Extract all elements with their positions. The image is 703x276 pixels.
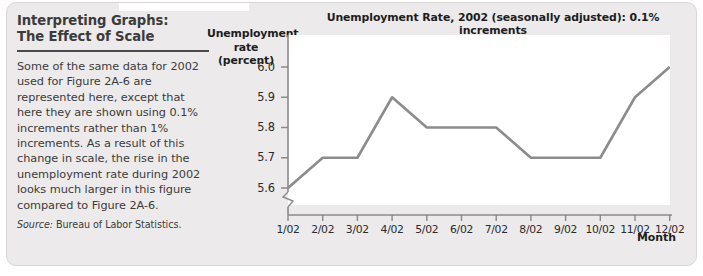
chart-block: Unemployment Rate, 2002 (seasonally adju… <box>207 3 697 266</box>
x-axis-title: Month <box>637 231 676 244</box>
figure-panel: Interpreting Graphs: The Effect of Scale… <box>6 2 697 266</box>
data-line <box>288 67 670 188</box>
caption-divider <box>17 50 209 52</box>
plot-svg <box>288 35 670 205</box>
caption-column: Interpreting Graphs: The Effect of Scale… <box>17 13 213 230</box>
y-tick-label: 5.8 <box>241 120 275 134</box>
chart-title: Unemployment Rate, 2002 (seasonally adju… <box>293 11 693 37</box>
caption-source: Source: Bureau of Labor Statistics. <box>17 219 213 230</box>
y-tick-label: 5.7 <box>241 150 275 164</box>
plot-area <box>288 35 670 205</box>
y-tick-label: 6.0 <box>241 60 275 74</box>
y-tick-label: 5.6 <box>241 181 275 195</box>
caption-body: Some of the same data for 2002 used for … <box>17 59 213 213</box>
caption-title: Interpreting Graphs: The Effect of Scale <box>17 13 213 44</box>
y-tick-label: 5.9 <box>241 90 275 104</box>
source-text: Bureau of Labor Statistics. <box>53 219 181 230</box>
source-label: Source: <box>17 219 53 230</box>
